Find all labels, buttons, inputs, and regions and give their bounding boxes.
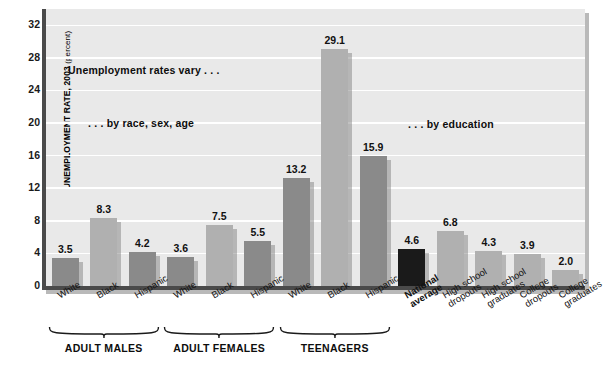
y-tick-label: 12 [14,181,40,193]
annotations-layer: Unemployment rates vary . . .. . . by ra… [46,9,585,286]
y-tick-label: 16 [14,149,40,161]
chart-annotation: Unemployment rates vary . . . [68,64,220,76]
group-label: ADULT FEMALES [163,342,275,354]
y-tick-label: 28 [14,51,40,63]
chart-annotation: . . . by education [408,118,494,130]
group-label: TEENAGERS [279,342,391,354]
group-brace [48,327,160,339]
group-brace [163,327,275,339]
group-brace [279,327,391,339]
y-tick-label: 8 [14,214,40,226]
y-tick-label: 32 [14,18,40,30]
group-label: ADULT MALES [48,342,160,354]
y-tick-label: 20 [14,116,40,128]
plot-area: UNEMPLOYMENT RATE, 2003 (percent) 048121… [42,9,585,290]
y-tick-label: 4 [14,246,40,258]
y-tick-label: 0 [14,279,40,291]
y-tick-label: 24 [14,83,40,95]
chart-annotation: . . . by race, sex, age [88,117,194,129]
